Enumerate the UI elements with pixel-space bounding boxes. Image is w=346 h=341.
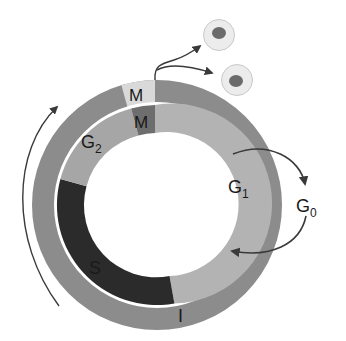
division-arrow-upper [155, 46, 200, 80]
daughter-cell-1 [204, 20, 235, 51]
label-inner-m: M [134, 113, 148, 132]
label-outer-m: M [129, 86, 143, 105]
label-i: I [178, 306, 183, 326]
cell-cycle-diagram: M M G2 G1 S I G0 [0, 0, 346, 341]
daughter-cell-2 [222, 65, 253, 96]
division-arrow-lower [157, 66, 212, 73]
nucleus-icon [229, 75, 243, 87]
nucleus-icon [212, 27, 226, 39]
label-s: S [89, 258, 101, 278]
